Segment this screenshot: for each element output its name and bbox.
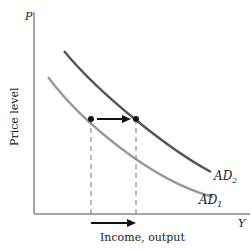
ad1-label-main: AD — [198, 193, 218, 207]
y-axis-symbol: P — [24, 10, 33, 23]
point-ad2 — [133, 116, 139, 122]
ad2-curve — [64, 51, 211, 172]
point-ad1 — [88, 116, 94, 122]
output-arrowhead — [127, 219, 136, 227]
y-axis-label: Price level — [8, 87, 21, 146]
x-axis-symbol: Y — [238, 217, 247, 230]
ad2-label-sub: 2 — [231, 176, 237, 185]
ad1-label: AD1 — [198, 193, 222, 209]
x-axis-label: Income, output — [100, 231, 185, 244]
ad1-curve — [48, 77, 213, 197]
ad1-label-sub: 1 — [217, 200, 222, 209]
ad2-label-main: AD — [213, 169, 233, 183]
ad2-label: AD2 — [213, 169, 237, 185]
ad-shift-diagram: P Price level Y Income, output AD2 AD1 — [0, 0, 252, 249]
